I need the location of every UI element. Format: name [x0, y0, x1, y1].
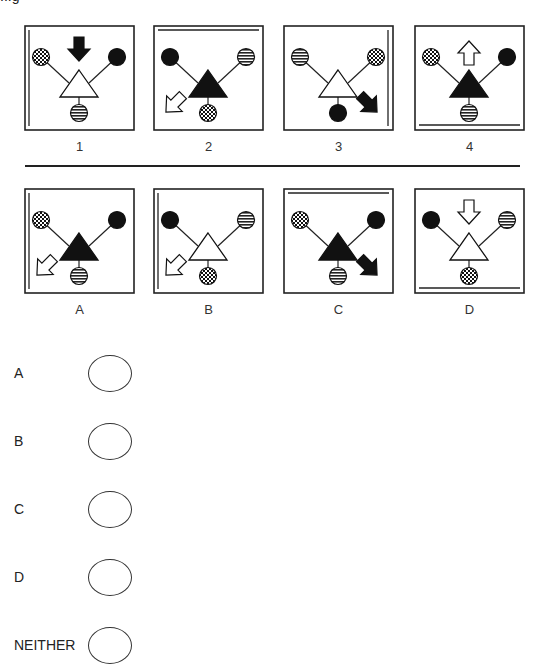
section-divider: [25, 165, 520, 167]
answer-option-neither[interactable]: NEITHER: [14, 625, 132, 665]
figure-label-c: C: [283, 302, 394, 317]
left-circle: [292, 49, 309, 66]
right-circle: [238, 49, 255, 66]
figure-panel-c: [283, 188, 394, 294]
left-circle: [423, 49, 440, 66]
answer-bubble-c[interactable]: [88, 491, 132, 528]
answer-label-neither: NEITHER: [14, 637, 88, 653]
answer-label-a: A: [14, 365, 88, 381]
left-circle: [162, 49, 179, 66]
right-circle: [238, 212, 255, 229]
figure-label-a: A: [24, 302, 135, 317]
right-circle: [499, 212, 516, 229]
figure-label-d: D: [414, 302, 525, 317]
figure-label-4: 4: [414, 139, 525, 154]
bottom-circle: [461, 268, 478, 285]
bottom-circle: [200, 268, 217, 285]
figure-label-2: 2: [153, 139, 264, 154]
answer-option-c[interactable]: C: [14, 489, 132, 529]
figure-panel-1: [24, 25, 135, 131]
bottom-circle: [330, 268, 347, 285]
figure-panel-b: [153, 188, 264, 294]
answer-option-a[interactable]: A: [14, 353, 132, 393]
figure-panel-2: [153, 25, 264, 131]
figure-panel-d: [414, 188, 525, 294]
answer-bubble-neither[interactable]: [88, 627, 132, 664]
answer-bubble-b[interactable]: [88, 423, 132, 460]
figure-label-1: 1: [24, 139, 135, 154]
bottom-circle: [461, 105, 478, 122]
bottom-circle: [71, 105, 88, 122]
right-circle: [499, 49, 516, 66]
right-circle: [109, 49, 126, 66]
answer-label-d: D: [14, 569, 88, 585]
figure-panel-a: [24, 188, 135, 294]
answer-label-b: B: [14, 433, 88, 449]
answer-option-d[interactable]: D: [14, 557, 132, 597]
figure-label-3: 3: [283, 139, 394, 154]
question-text-cut: ...g: [0, 0, 19, 4]
figure-panel-4: [414, 25, 525, 131]
figure-panel-3: [283, 25, 394, 131]
left-circle: [33, 49, 50, 66]
bottom-circle: [330, 105, 347, 122]
left-circle: [162, 212, 179, 229]
answer-option-b[interactable]: B: [14, 421, 132, 461]
bottom-circle: [200, 105, 217, 122]
answer-bubble-a[interactable]: [88, 355, 132, 392]
figure-label-b: B: [153, 302, 264, 317]
answer-label-c: C: [14, 501, 88, 517]
left-circle: [33, 212, 50, 229]
right-circle: [368, 49, 385, 66]
left-circle: [292, 212, 309, 229]
left-circle: [423, 212, 440, 229]
right-circle: [109, 212, 126, 229]
answer-bubble-d[interactable]: [88, 559, 132, 596]
bottom-circle: [71, 268, 88, 285]
right-circle: [368, 212, 385, 229]
